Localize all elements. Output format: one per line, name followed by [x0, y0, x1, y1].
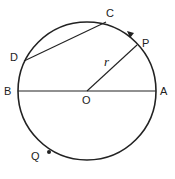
radius-op	[87, 45, 137, 91]
label-r: r	[104, 54, 110, 69]
label-p: P	[142, 37, 149, 49]
label-a: A	[160, 85, 168, 97]
label-c: C	[106, 7, 114, 19]
point-q-dot	[47, 150, 51, 154]
circle-diagram: C P D B A O Q r	[0, 0, 175, 179]
label-d: D	[10, 51, 18, 63]
chord-cd	[24, 22, 106, 61]
arrow-icon	[127, 31, 134, 38]
label-b: B	[4, 85, 11, 97]
label-q: Q	[31, 150, 40, 162]
label-o: O	[82, 94, 91, 106]
